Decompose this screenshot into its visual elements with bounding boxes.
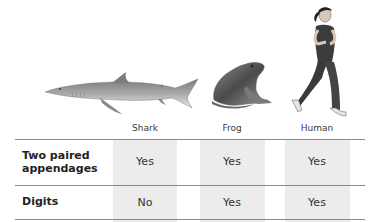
cell-appendages-human: Yes xyxy=(282,155,352,168)
column-header-shark: Shark xyxy=(110,123,180,133)
row-label-two-paired-appendages: Two paired appendages xyxy=(22,149,98,175)
cell-appendages-shark: Yes xyxy=(110,155,180,168)
table-row-divider xyxy=(15,185,365,186)
cell-digits-human: Yes xyxy=(282,196,352,209)
cell-digits-shark: No xyxy=(110,196,180,209)
column-header-frog: Frog xyxy=(197,123,267,133)
cell-appendages-frog: Yes xyxy=(197,155,267,168)
frog-illustration xyxy=(212,63,272,109)
row-label-line2: appendages xyxy=(22,162,98,175)
table-top-rule xyxy=(15,139,365,140)
organism-illustrations xyxy=(0,0,380,125)
column-header-human: Human xyxy=(282,123,352,133)
column-shade-frog xyxy=(200,140,265,222)
row-label-line1: Two paired xyxy=(22,149,98,162)
column-shade-human xyxy=(285,140,350,222)
human-runner-illustration xyxy=(292,7,346,116)
shark-illustration xyxy=(45,72,198,114)
cell-digits-frog: Yes xyxy=(197,196,267,209)
table-bottom-rule xyxy=(15,219,365,220)
column-shade-shark xyxy=(113,140,177,222)
row-label-digits: Digits xyxy=(22,195,58,208)
